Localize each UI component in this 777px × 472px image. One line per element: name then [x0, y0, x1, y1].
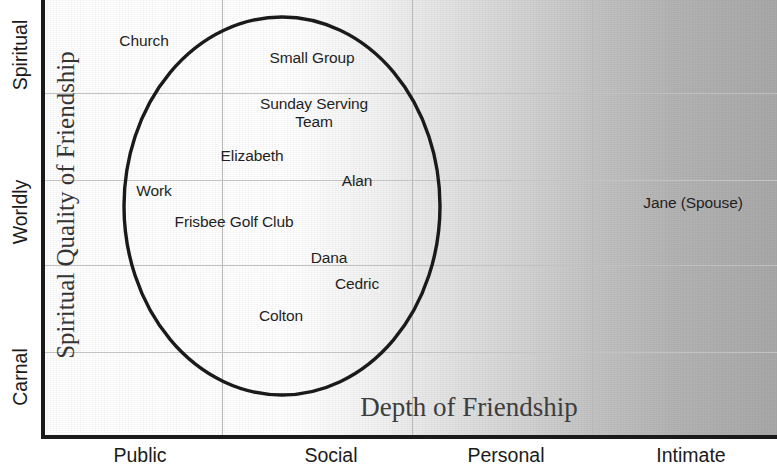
circle-of-friendship-ellipse	[124, 17, 440, 395]
y-axis-tick-worldly: Worldly	[9, 180, 32, 245]
data-point-label: Church	[119, 32, 168, 50]
x-axis-tick-public: Public	[113, 444, 166, 467]
data-point-label: Colton	[259, 307, 303, 325]
y-axis-title: Spiritual Quality of Friendship	[52, 51, 80, 359]
data-point-label: Jane (Spouse)	[643, 194, 743, 212]
data-point-label: Elizabeth	[221, 147, 284, 165]
y-axis-tick-spiritual: Spiritual	[9, 20, 32, 90]
data-point-label: Sunday Serving Team	[260, 95, 368, 132]
x-axis-tick-social: Social	[304, 444, 357, 467]
data-point-label: Dana	[311, 249, 348, 267]
friendship-quadrant-chart: ChurchSmall GroupSunday Serving TeamEliz…	[0, 0, 777, 472]
y-axis-tick-carnal: Carnal	[9, 348, 32, 405]
data-point-label: Cedric	[335, 275, 379, 293]
x-axis-title: Depth of Friendship	[360, 392, 577, 423]
x-axis-tick-personal: Personal	[468, 444, 545, 467]
plot-area: ChurchSmall GroupSunday Serving TeamEliz…	[44, 0, 777, 437]
x-axis-tick-intimate: Intimate	[656, 444, 725, 467]
y-axis-line	[41, 0, 45, 437]
data-point-label: Work	[136, 182, 171, 200]
data-point-label: Frisbee Golf Club	[175, 213, 294, 231]
circle-of-friendship-svg	[44, 0, 777, 437]
data-point-label: Alan	[342, 172, 373, 190]
data-point-label: Small Group	[269, 49, 354, 67]
x-axis-line	[41, 435, 777, 439]
